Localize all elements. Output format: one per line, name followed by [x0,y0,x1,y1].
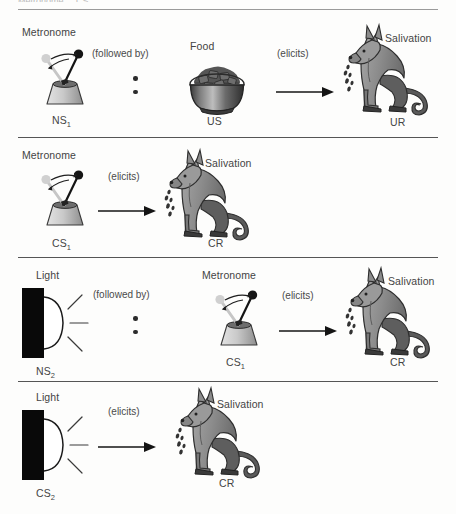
code-text: CS [36,487,51,499]
panel-2-stimulus-label: Metronome [22,149,76,161]
code-subscript: 1 [67,120,71,129]
panel-1-response-label: Salivation [385,32,432,44]
saliva-drops [343,64,354,92]
food-bowl-icon [178,62,256,116]
panel-3-response-code: CR [390,356,405,368]
panel-1: Metronome [0,0,456,137]
panel-1-second-stimulus-code: US [207,115,222,127]
code-text: CS [226,356,241,368]
code-subscript: 2 [51,371,55,380]
panel-2-relation-label: (elicits) [108,171,140,182]
panel-3-second-stimulus-code: CS1 [226,356,245,371]
code-subscript: 2 [51,493,55,502]
code-subscript: 1 [241,362,245,371]
panel-4-relation-label: (elicits) [108,406,140,417]
panel-3-connector-dots [133,316,138,343]
panel-4-stimulus-label: Light [36,391,59,403]
metronome-icon [207,287,269,349]
light-lamp-icon [18,407,106,485]
higher-order-conditioning-figure: Metronome ... CS Metronome [0,0,456,514]
panel-2-response-label: Salivation [205,157,252,169]
saliva-drops [164,189,175,217]
panel-3: Light NS2 (followed by) Metronome [0,257,456,381]
right-arrow-icon [277,323,341,339]
panel-1-connector-dots [133,76,138,103]
saliva-drops [175,427,186,455]
code-text: NS [52,114,67,126]
code-text: CS [52,237,67,249]
panel-1-relation-label: (elicits) [277,48,309,59]
panel-3-relation-label: (elicits) [282,290,314,301]
right-arrow-icon [274,84,338,100]
panel-3-response-label: Salivation [388,275,435,287]
panel-2: Metronome CS1 (elicits) [0,137,456,257]
panel-1-response-code: UR [390,116,405,128]
panel-3-connector-label: (followed by) [93,289,150,300]
panel-2-stimulus-code: CS1 [52,237,71,252]
panel-1-stimulus-code: NS1 [52,114,71,129]
panel-3-stimulus-code: NS2 [36,365,55,380]
right-arrow-icon [96,439,160,455]
panel-4-stimulus-code: CS2 [36,487,55,502]
code-text: NS [36,365,51,377]
panel-4-response-label: Salivation [217,398,264,410]
panel-1-connector-label: (followed by) [92,48,149,59]
saliva-drops [345,307,356,335]
right-arrow-icon [96,203,160,219]
metronome-icon [33,167,95,229]
panel-4: Light CS2 (elicits) [0,381,456,514]
code-subscript: 1 [67,243,71,252]
panel-3-second-stimulus-label: Metronome [202,269,256,281]
panel-2-response-code: CR [208,237,223,249]
panel-4-response-code: CR [219,477,234,489]
panel-1-stimulus-label: Metronome [22,26,76,38]
panel-1-second-stimulus-label: Food [190,40,214,52]
panel-3-stimulus-label: Light [36,269,59,281]
metronome-icon [33,46,95,108]
